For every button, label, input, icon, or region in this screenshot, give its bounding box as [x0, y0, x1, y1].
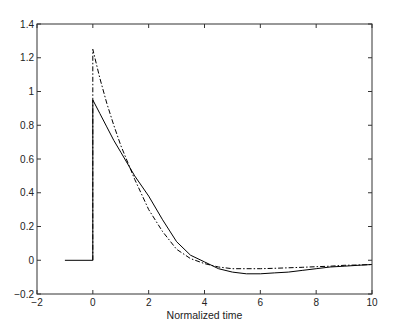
- y-tick-label: 0.6: [20, 154, 34, 165]
- y-tick-label: −0.2: [14, 289, 34, 300]
- x-tick-label: 6: [258, 297, 264, 308]
- y-tick-label: 0.8: [20, 120, 34, 131]
- y-tick-label: 0: [28, 255, 34, 266]
- y-tick-label: 0.4: [20, 187, 34, 198]
- x-tick-label: 4: [202, 297, 208, 308]
- x-axis-label: Normalized time: [167, 309, 243, 321]
- x-tick-label: 8: [313, 297, 319, 308]
- curves: [65, 49, 372, 273]
- y-tick-label: 1.4: [20, 19, 34, 30]
- line-chart: −20246810−0.200.20.40.60.811.21.4 Normal…: [0, 0, 395, 332]
- y-tick-label: 0.2: [20, 221, 34, 232]
- x-tick-label: 2: [146, 297, 152, 308]
- y-tick-label: 1.2: [20, 52, 34, 63]
- series-dash-dot: [93, 49, 372, 268]
- y-tick-label: 1: [28, 86, 34, 97]
- axes-box: [37, 24, 372, 294]
- x-tick-label: 10: [366, 297, 378, 308]
- series-solid: [65, 100, 372, 274]
- x-tick-label: 0: [90, 297, 96, 308]
- axes: −20246810−0.200.20.40.60.811.21.4: [14, 19, 378, 309]
